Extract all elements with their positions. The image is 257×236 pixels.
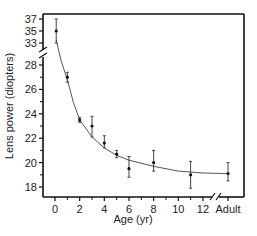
data-point <box>152 150 155 171</box>
data-point <box>55 19 58 43</box>
y-tick-label: 20 <box>25 157 37 169</box>
fit-curve <box>56 40 228 174</box>
data-point <box>115 150 118 157</box>
data-point <box>226 163 229 181</box>
x-axis-label: Age (yr) <box>113 213 152 225</box>
y-tick-label: 28 <box>25 59 37 71</box>
x-tick-label: 0 <box>52 203 58 215</box>
y-tick-label: 37 <box>25 13 37 25</box>
y-tick-label: 22 <box>25 132 37 144</box>
plot-frame <box>39 14 244 200</box>
y-tick-label: 18 <box>25 181 37 193</box>
y-tick-label: 35 <box>25 25 37 37</box>
y-tick-label: 33 <box>25 37 37 49</box>
x-tick-label: 10 <box>172 203 184 215</box>
chart-svg: 182022242628333537 024681012Adult Lens p… <box>0 0 257 236</box>
y-tick-label: 26 <box>25 83 37 95</box>
y-axis-ticks: 182022242628333537 <box>25 13 43 193</box>
data-point <box>66 72 69 82</box>
data-point <box>103 136 106 148</box>
y-tick-label: 24 <box>25 108 37 120</box>
data-point <box>90 116 93 137</box>
y-axis-label: Lens power (diopters) <box>3 53 15 159</box>
data-point <box>189 161 192 188</box>
x-tick-label: 4 <box>101 203 107 215</box>
data-points <box>55 19 230 188</box>
x-tick-label: 2 <box>77 203 83 215</box>
x-tick-label: 12 <box>197 203 209 215</box>
x-tick-label: Adult <box>215 203 240 215</box>
